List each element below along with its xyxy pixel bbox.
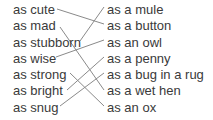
left-item[interactable]: as bright xyxy=(13,83,81,99)
left-item[interactable]: as mad xyxy=(13,18,81,34)
right-item[interactable]: as a bug in a rug xyxy=(107,67,204,83)
right-item[interactable]: as a mule xyxy=(107,2,204,18)
left-item[interactable]: as snug xyxy=(13,100,81,116)
left-item[interactable]: as strong xyxy=(13,67,81,83)
right-item[interactable]: as an owl xyxy=(107,35,204,51)
left-item[interactable]: as wise xyxy=(13,51,81,67)
left-item[interactable]: as stubborn xyxy=(13,35,81,51)
right-column: as a mule as a button as an owl as a pen… xyxy=(107,2,204,116)
left-column: as cute as mad as stubborn as wise as st… xyxy=(13,2,81,116)
right-item[interactable]: as a wet hen xyxy=(107,83,204,99)
right-item[interactable]: as a button xyxy=(107,18,204,34)
right-item[interactable]: as a penny xyxy=(107,51,204,67)
right-item[interactable]: as an ox xyxy=(107,100,204,116)
line-stubborn-mule xyxy=(80,7,104,41)
left-item[interactable]: as cute xyxy=(13,2,81,18)
